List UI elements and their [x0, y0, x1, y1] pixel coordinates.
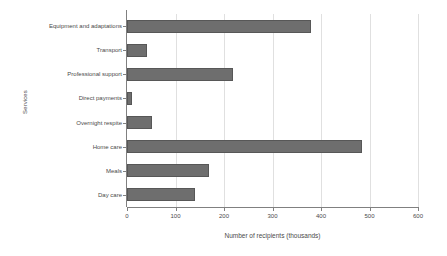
bar: [127, 188, 195, 201]
bar: [127, 20, 311, 33]
bar-row: Professional support: [127, 62, 418, 86]
x-tick-mark: [418, 207, 419, 211]
x-tick-label: 400: [306, 213, 336, 219]
y-tick-label: Transport: [97, 43, 122, 57]
x-tick-label: 100: [161, 213, 191, 219]
y-tick-label: Equipment and adaptations: [49, 19, 122, 33]
y-tick-label: Direct payments: [79, 91, 122, 105]
bar-row: Direct payments: [127, 86, 418, 110]
x-axis-title: Number of recipients (thousands): [127, 232, 418, 239]
y-axis-title: Services: [22, 72, 28, 132]
plot-area: Equipment and adaptationsTransportProfes…: [127, 14, 418, 207]
bar: [127, 68, 233, 81]
x-tick-mark: [321, 207, 322, 211]
bar: [127, 164, 209, 177]
bar-row: Transport: [127, 38, 418, 62]
gridline: [418, 14, 419, 207]
y-tick-label: Home care: [93, 140, 122, 154]
bar: [127, 116, 152, 129]
x-tick-mark: [224, 207, 225, 211]
bar-chart-figure: Services Equipment and adaptationsTransp…: [0, 0, 447, 256]
y-tick-label: Professional support: [67, 67, 122, 81]
bar-row: Home care: [127, 135, 418, 159]
bar: [127, 140, 362, 153]
x-tick-mark: [273, 207, 274, 211]
bar-row: Overnight respite: [127, 111, 418, 135]
x-tick-mark: [127, 207, 128, 211]
x-tick-mark: [370, 207, 371, 211]
bar: [127, 44, 147, 57]
y-tick-label: Overnight respite: [76, 116, 122, 130]
x-tick-label: 300: [258, 213, 288, 219]
bar-row: Day care: [127, 183, 418, 207]
x-tick-label: 0: [112, 213, 142, 219]
y-tick-label: Meals: [106, 164, 122, 178]
bar-row: Meals: [127, 159, 418, 183]
x-tick-label: 500: [355, 213, 385, 219]
bar-row: Equipment and adaptations: [127, 14, 418, 38]
x-tick-label: 200: [209, 213, 239, 219]
bar: [127, 92, 132, 105]
y-tick-label: Day care: [98, 188, 122, 202]
x-tick-label: 600: [403, 213, 433, 219]
x-tick-mark: [176, 207, 177, 211]
